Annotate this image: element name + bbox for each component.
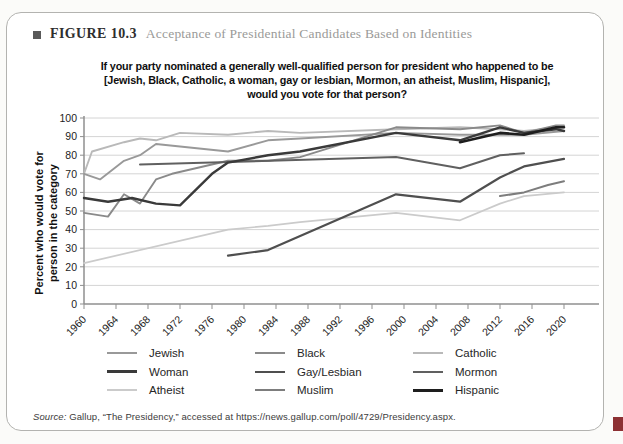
x-tick-label: 1988 xyxy=(287,313,312,338)
legend-line-swatch-jewish xyxy=(107,352,137,354)
legend-item-mormon: Mormon xyxy=(413,366,553,378)
figure-title: Acceptance of Presidential Candidates Ba… xyxy=(146,26,472,42)
y-tick-label: 80 xyxy=(65,149,77,161)
x-tick-label: 2012 xyxy=(479,313,504,338)
x-tick-label: 2004 xyxy=(415,313,440,338)
y-tick-label: 10 xyxy=(65,279,77,291)
x-tick-label: 1984 xyxy=(255,313,280,338)
legend-item-hispanic: Hispanic xyxy=(413,384,553,396)
figure-header: FIGURE 10.3 Acceptance of Presidential C… xyxy=(33,26,472,42)
x-tick-label: 2016 xyxy=(511,313,536,338)
figure-card: FIGURE 10.3 Acceptance of Presidential C… xyxy=(6,12,604,431)
x-tick-label: 2020 xyxy=(543,313,568,338)
legend-item-atheist: Atheist xyxy=(107,384,255,396)
legend-item-jewish: Jewish xyxy=(107,347,255,359)
legend-label-hispanic: Hispanic xyxy=(455,384,499,396)
legend-label-muslim: Muslim xyxy=(297,384,333,396)
legend-label-catholic: Catholic xyxy=(455,347,497,359)
question-line-1: If your party nominated a generally well… xyxy=(55,59,599,73)
legend-label-woman: Woman xyxy=(149,366,188,378)
y-tick-label: 40 xyxy=(65,223,77,235)
y-tick-label: 90 xyxy=(65,130,77,142)
y-tick-label: 100 xyxy=(59,112,77,124)
x-tick-label: 1996 xyxy=(351,313,376,338)
legend-line-swatch-mormon xyxy=(413,371,443,373)
legend-label-gay-lesbian: Gay/Lesbian xyxy=(297,366,362,378)
chart-plot: 0102030405060708090100196019641968197219… xyxy=(1,96,623,348)
x-tick-label: 1960 xyxy=(63,313,88,338)
source-text: Gallup, “The Presidency,” accessed at ht… xyxy=(66,411,455,422)
x-tick-label: 2008 xyxy=(447,313,472,338)
legend-line-swatch-catholic xyxy=(413,352,443,354)
y-tick-label: 0 xyxy=(71,298,77,310)
x-tick-label: 2000 xyxy=(383,313,408,338)
legend-line-swatch-gay-lesbian xyxy=(255,371,285,373)
chart-question-title: If your party nominated a generally well… xyxy=(55,59,599,101)
series-line-woman xyxy=(84,127,564,205)
x-tick-label: 1972 xyxy=(159,313,184,338)
y-tick-label: 50 xyxy=(65,205,77,217)
legend-label-atheist: Atheist xyxy=(149,384,184,396)
y-tick-label: 70 xyxy=(65,168,77,180)
bullet-square-icon xyxy=(33,31,41,39)
legend-line-swatch-black xyxy=(255,352,285,354)
legend-item-black: Black xyxy=(255,347,413,359)
source-note: Source: Gallup, “The Presidency,” access… xyxy=(33,411,456,422)
legend-line-swatch-muslim xyxy=(255,389,285,391)
legend-item-muslim: Muslim xyxy=(255,384,413,396)
legend-label-mormon: Mormon xyxy=(455,366,497,378)
page-edge-tab xyxy=(613,417,623,431)
y-tick-label: 60 xyxy=(65,186,77,198)
legend-line-swatch-woman xyxy=(107,370,137,373)
legend-item-gay-lesbian: Gay/Lesbian xyxy=(255,366,413,378)
question-line-2: [Jewish, Black, Catholic, a woman, gay o… xyxy=(55,73,599,87)
figure-label: FIGURE 10.3 xyxy=(50,26,137,42)
y-tick-label: 20 xyxy=(65,261,77,273)
source-prefix: Source: xyxy=(33,411,66,422)
x-tick-label: 1964 xyxy=(95,313,120,338)
legend-line-swatch-atheist xyxy=(107,389,137,391)
legend-label-jewish: Jewish xyxy=(149,347,184,359)
legend-item-catholic: Catholic xyxy=(413,347,553,359)
x-tick-label: 1976 xyxy=(191,313,216,338)
legend-line-swatch-hispanic xyxy=(413,389,443,392)
x-tick-label: 1992 xyxy=(319,313,344,338)
legend-label-black: Black xyxy=(297,347,325,359)
y-tick-label: 30 xyxy=(65,242,77,254)
x-tick-label: 1968 xyxy=(127,313,152,338)
x-tick-label: 1980 xyxy=(223,313,248,338)
chart-legend: JewishBlackCatholicWomanGay/LesbianMormo… xyxy=(107,344,567,400)
legend-item-woman: Woman xyxy=(107,366,255,378)
